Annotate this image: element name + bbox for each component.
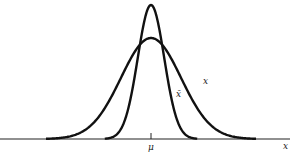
x-axis-label: x — [283, 141, 288, 151]
curve-sample-mean — [105, 5, 197, 139]
mean-label: μ — [148, 142, 154, 152]
curve-population-label: x — [203, 76, 208, 86]
normal-distributions-chart: μ x x x̄ — [0, 0, 292, 156]
curve-sample-mean-label: x̄ — [176, 89, 181, 99]
curve-population — [46, 38, 256, 139]
